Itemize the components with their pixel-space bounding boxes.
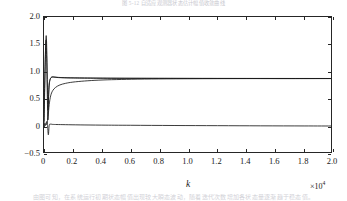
y-axis-tick — [44, 127, 47, 128]
series-line — [44, 79, 331, 127]
x-axis-tick — [44, 149, 45, 152]
x-tick-label: 1.4 — [240, 156, 251, 166]
x-axis-multiplier-base: ×10 — [310, 182, 323, 191]
plot-clip — [44, 17, 331, 152]
series-line — [44, 122, 331, 135]
y-tick-label: 1.5 — [29, 38, 40, 48]
x-axis-title: k — [186, 179, 190, 189]
x-axis-tick — [304, 17, 305, 20]
x-tick-label: 1.2 — [211, 156, 222, 166]
x-axis-tick — [217, 149, 218, 152]
y-tick-labels: −0.500.51.01.52.0 — [0, 0, 40, 201]
x-axis-tick — [189, 17, 190, 20]
x-axis-tick — [160, 17, 161, 20]
x-axis-tick — [160, 149, 161, 152]
x-tick-label: 1.8 — [298, 156, 309, 166]
y-axis-tick — [328, 17, 331, 18]
x-tick-label: 0.4 — [95, 156, 106, 166]
y-axis-tick — [328, 44, 331, 45]
x-tick-label: 1.6 — [269, 156, 280, 166]
x-axis-tick — [102, 149, 103, 152]
plot-area — [43, 16, 332, 153]
y-axis-tick — [328, 127, 331, 128]
x-axis-tick — [246, 149, 247, 152]
y-axis-tick — [328, 99, 331, 100]
y-axis-tick — [328, 72, 331, 73]
scan-bottom-caption-fragment: 由图可知，在系统运行初期状态幅值出现较大瞬态波动，随着迭代次数增加各状态量逐渐趋… — [0, 194, 347, 201]
x-axis-multiplier-exponent: 4 — [323, 180, 326, 186]
figure-container: 图 5-12 自适应观测器状态估计幅值收敛曲线 00.20.40.60.81.0… — [0, 0, 347, 201]
y-tick-label: −0.5 — [25, 148, 40, 158]
x-axis-tick — [73, 149, 74, 152]
y-tick-label: 0 — [36, 121, 40, 131]
x-tick-label: 1.0 — [182, 156, 193, 166]
x-axis-tick — [102, 17, 103, 20]
x-axis-tick — [246, 17, 247, 20]
x-tick-label: 2.0 — [327, 156, 338, 166]
x-axis-tick — [217, 17, 218, 20]
x-axis-tick — [275, 17, 276, 20]
y-axis-tick — [44, 154, 47, 155]
x-axis-tick — [333, 17, 334, 20]
x-axis-tick — [131, 17, 132, 20]
y-axis-tick — [44, 44, 47, 45]
scan-top-caption-fragment: 图 5-12 自适应观测器状态估计幅值收敛曲线 — [0, 0, 347, 6]
y-tick-label: 0.5 — [29, 93, 40, 103]
x-axis-tick — [275, 149, 276, 152]
y-axis-tick — [44, 17, 47, 18]
x-axis-tick — [333, 149, 334, 152]
x-tick-label: 0 — [41, 156, 45, 166]
x-axis-tick — [304, 149, 305, 152]
x-tick-label: 0.8 — [153, 156, 164, 166]
x-axis-tick — [189, 149, 190, 152]
x-tick-label: 0.6 — [124, 156, 135, 166]
chart-curves — [44, 17, 331, 152]
y-axis-tick — [44, 99, 47, 100]
x-axis-tick — [131, 149, 132, 152]
y-tick-label: 1.0 — [29, 66, 40, 76]
x-tick-label: 0.2 — [67, 156, 78, 166]
y-tick-label: 2.0 — [29, 11, 40, 21]
y-axis-tick — [44, 72, 47, 73]
x-axis-multiplier: ×104 — [310, 180, 325, 191]
x-axis-tick — [73, 17, 74, 20]
y-axis-tick — [328, 154, 331, 155]
